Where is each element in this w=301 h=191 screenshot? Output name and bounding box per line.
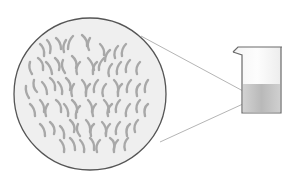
magnified-view bbox=[14, 18, 166, 170]
magnifier-circle bbox=[14, 18, 166, 170]
beaker bbox=[233, 47, 282, 113]
illustration bbox=[0, 0, 301, 191]
beaker-liquid bbox=[243, 84, 280, 112]
diagram-canvas: Magnified view of curved rod-shaped micr… bbox=[0, 0, 301, 191]
